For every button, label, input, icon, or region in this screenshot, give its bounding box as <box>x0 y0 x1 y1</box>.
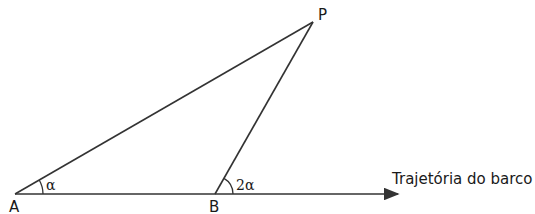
angle-arc-B <box>224 178 233 194</box>
angle-label-2alpha: 2α <box>236 177 255 193</box>
angle-label-alpha: α <box>46 177 56 193</box>
angle-arc-A <box>39 180 43 194</box>
point-label-B: B <box>209 198 219 214</box>
segment-BP <box>215 22 313 194</box>
trajectory-label: Trajetória do barco <box>391 170 533 188</box>
point-label-A: A <box>9 198 20 214</box>
segment-AP <box>15 22 313 194</box>
point-label-P: P <box>318 6 327 24</box>
triangle-diagram: A B P α 2α Trajetória do barco <box>0 0 535 214</box>
